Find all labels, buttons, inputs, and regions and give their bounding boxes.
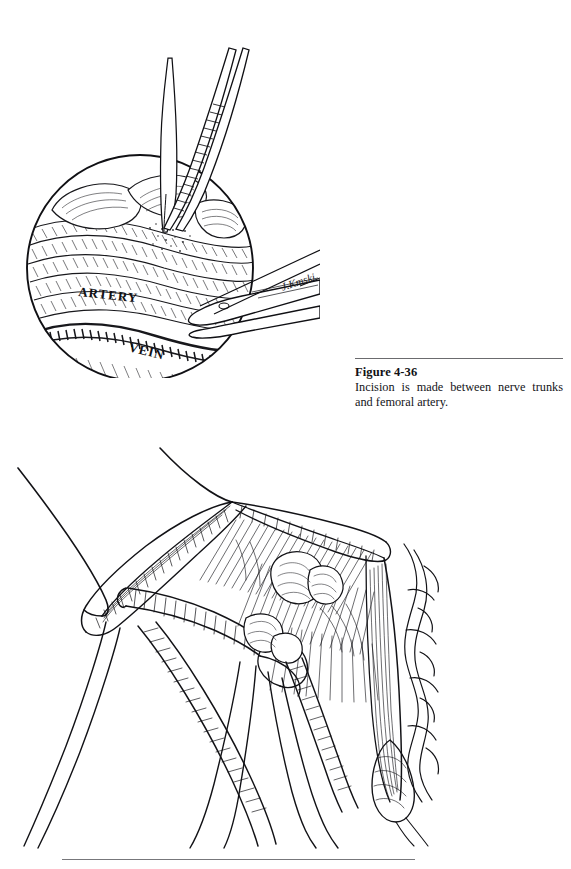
caption-rule — [355, 358, 563, 359]
nerve-trunks — [138, 622, 276, 846]
figure-number: Figure 4-36 — [355, 365, 563, 379]
wound-floor-hatching — [200, 520, 378, 702]
inset-figure: ARTERY VEIN — [0, 18, 320, 378]
figure-caption-text: Incision is made between nerve trunks an… — [355, 380, 563, 409]
figure-caption-block: Figure 4-36 Incision is made between ner… — [355, 358, 563, 409]
descending-vessel-bundle — [286, 658, 358, 812]
superficial-vein-network — [404, 544, 439, 802]
page-bottom-rule — [62, 859, 415, 860]
nodular-structures — [244, 552, 343, 663]
femoral-artery — [117, 588, 260, 656]
page-canvas: ARTERY VEIN — [0, 0, 571, 869]
main-figure — [10, 440, 555, 850]
muscle-belly-right — [366, 556, 402, 802]
